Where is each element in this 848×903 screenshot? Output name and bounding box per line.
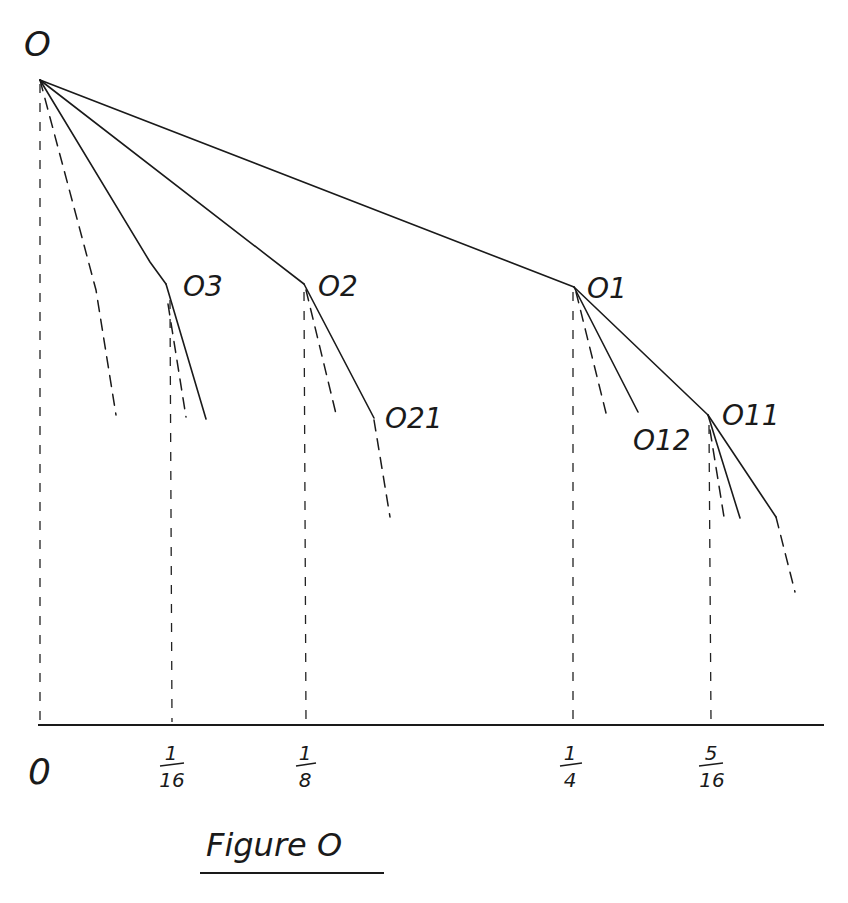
figure-caption: Figure O — [206, 826, 342, 864]
dash-o11-tail — [776, 517, 795, 592]
dash-o2-child — [306, 290, 337, 418]
tick-1-16-denominator: 16 — [159, 768, 184, 792]
node-label-o3: O3 — [183, 270, 223, 303]
node-label-o12: O12 — [633, 424, 691, 457]
root-label: O — [24, 24, 51, 64]
tick-1-8-denominator: 8 — [299, 768, 312, 792]
projection-1-8 — [304, 292, 306, 722]
node-label-o21: O21 — [385, 402, 443, 435]
edge-o1-o12 — [574, 287, 638, 412]
edge-o2-o21 — [304, 284, 374, 418]
edges-dashed — [40, 80, 795, 592]
edge-o1-o11 — [574, 287, 708, 415]
node-label-o11: O11 — [722, 399, 780, 432]
tick-label-0: 0 — [28, 751, 51, 792]
edge-o3-child — [166, 284, 206, 419]
edge-root-o2 — [40, 80, 304, 284]
edge-root-o1 — [40, 80, 574, 287]
edge-root-o3 — [40, 80, 166, 284]
tick-5-16-denominator: 16 — [699, 768, 724, 792]
projection-lines — [40, 84, 711, 722]
dash-o1-child — [576, 292, 606, 413]
projection-5-16 — [709, 425, 711, 722]
projection-1-16 — [170, 300, 172, 722]
tick-1-8-numerator: 1 — [299, 741, 312, 765]
tick-1-4-denominator: 4 — [564, 768, 577, 792]
tree-diagram: O O3 O2 O1 O21 O12 O11 — [0, 0, 848, 903]
node-label-o1: O1 — [587, 272, 627, 305]
tick-1-16-numerator: 1 — [165, 741, 178, 765]
node-label-o2: O2 — [318, 270, 358, 303]
tick-1-4-numerator: 1 — [564, 741, 577, 765]
tick-5-16-numerator: 5 — [705, 741, 718, 765]
tick-labels: 0 1 16 1 8 1 4 5 16 — [28, 741, 725, 792]
